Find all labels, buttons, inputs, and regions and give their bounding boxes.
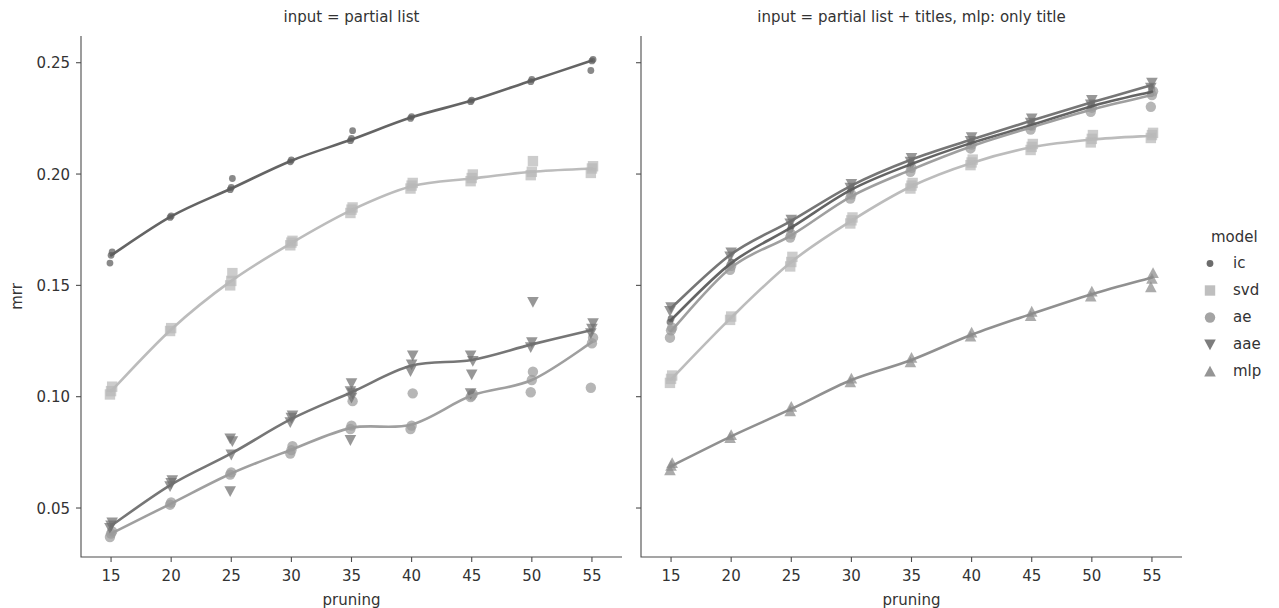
- x-tick-label: 50: [1082, 567, 1101, 585]
- point-marker: [527, 297, 539, 308]
- series-scatter-aae: [664, 78, 1158, 317]
- point-marker: [1205, 285, 1215, 295]
- series-scatter-svd: [105, 156, 598, 400]
- series-line-ic: [111, 60, 592, 255]
- x-axis-label-0: pruning: [323, 591, 381, 608]
- point-marker: [349, 127, 356, 134]
- series-line-ae: [671, 95, 1152, 331]
- legend-item-label: aae: [1233, 335, 1261, 353]
- point-marker: [224, 486, 236, 497]
- point-marker: [229, 175, 236, 182]
- series-scatter-aae: [104, 297, 599, 534]
- point-marker: [526, 387, 536, 397]
- panel-title-1: input = partial list + titles, mlp: only…: [757, 8, 1066, 26]
- series-line-ic: [671, 92, 1152, 320]
- x-tick-label: 45: [1022, 567, 1041, 585]
- point-marker: [587, 67, 594, 74]
- x-tick-label: 40: [402, 567, 421, 585]
- legend: modelicsvdaeaaemlp: [1183, 224, 1275, 380]
- legend-item-label: svd: [1233, 281, 1259, 299]
- y-axis-label: mrr: [8, 282, 26, 310]
- y-tick-label: 0.25: [37, 54, 70, 72]
- legend-item-label: mlp: [1233, 362, 1261, 380]
- axis-spine: [641, 36, 1182, 557]
- seaborn-relplot-figure: input = partial list0.050.100.150.200.25…: [0, 0, 1279, 608]
- point-marker: [466, 369, 478, 380]
- legend-title: model: [1211, 228, 1258, 246]
- point-marker: [107, 260, 114, 267]
- point-marker: [528, 156, 538, 166]
- point-marker: [1146, 102, 1156, 112]
- panel-title-0: input = partial list: [284, 8, 420, 26]
- x-tick-label: 40: [962, 567, 981, 585]
- series-scatter-mlp: [664, 267, 1159, 475]
- point-marker: [528, 367, 538, 377]
- y-tick-label: 0.20: [37, 166, 70, 184]
- x-tick-label: 55: [1142, 567, 1161, 585]
- series-scatter-ic: [667, 86, 1156, 325]
- point-marker: [586, 383, 596, 393]
- series-line-aae: [671, 85, 1152, 308]
- panel-left: input = partial list0.050.100.150.200.25…: [37, 8, 622, 608]
- y-tick-label: 0.05: [37, 500, 70, 518]
- x-tick-label: 20: [722, 567, 741, 585]
- legend-item-label: ae: [1233, 308, 1251, 326]
- x-tick-label: 15: [102, 567, 121, 585]
- series-scatter-ae: [665, 86, 1158, 343]
- axis-spine: [81, 36, 622, 557]
- point-marker: [1207, 260, 1214, 267]
- point-marker: [408, 388, 418, 398]
- x-tick-label: 20: [162, 567, 181, 585]
- x-tick-label: 35: [342, 567, 361, 585]
- x-tick-label: 35: [902, 567, 921, 585]
- y-tick-label: 0.15: [37, 277, 70, 295]
- x-tick-label: 45: [462, 567, 481, 585]
- chart-canvas: input = partial list0.050.100.150.200.25…: [0, 0, 1279, 608]
- series-line-svd: [111, 168, 592, 391]
- point-marker: [345, 435, 357, 446]
- x-tick-label: 55: [582, 567, 601, 585]
- x-tick-label: 50: [522, 567, 541, 585]
- x-tick-label: 15: [662, 567, 681, 585]
- point-marker: [1205, 312, 1215, 322]
- y-tick-label: 0.10: [37, 388, 70, 406]
- x-axis-label-1: pruning: [883, 591, 941, 608]
- point-marker: [1147, 267, 1159, 278]
- panel-right: input = partial list + titles, mlp: only…: [636, 8, 1182, 608]
- x-tick-label: 25: [782, 567, 801, 585]
- x-tick-label: 25: [222, 567, 241, 585]
- series-scatter-ic: [107, 56, 597, 267]
- legend-background: [1183, 224, 1275, 376]
- legend-item-label: ic: [1233, 254, 1245, 272]
- x-tick-label: 30: [282, 567, 301, 585]
- x-tick-label: 30: [842, 567, 861, 585]
